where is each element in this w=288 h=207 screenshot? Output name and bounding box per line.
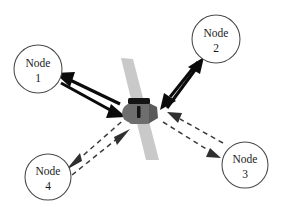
node-4[interactable]: Node 4	[25, 154, 71, 200]
link-node-2[interactable]	[160, 57, 204, 110]
node-3-label-top: Node	[233, 153, 258, 165]
link-node-3[interactable]	[163, 112, 223, 158]
link-node-4[interactable]	[66, 116, 130, 175]
dashed-line-to-satellite-from-node-3	[180, 119, 223, 143]
topology-svg: Node 1 Node 2 Node 3 Node 4	[0, 0, 288, 207]
satellite-body-antenna-mast	[137, 106, 141, 118]
node-1-circle	[14, 45, 62, 93]
node-4-circle	[25, 154, 71, 200]
node-3-circle	[222, 142, 268, 188]
node-3-label-bottom: 3	[242, 168, 248, 180]
node-2[interactable]: Node 2	[192, 15, 240, 63]
dashed-line-to-node-3	[163, 122, 208, 150]
node-4-label-top: Node	[36, 165, 61, 177]
solid-line-to-satellite-from-node-2	[170, 62, 198, 97]
node-1-label-top: Node	[26, 57, 51, 69]
node-2-circle	[192, 15, 240, 63]
node-2-label-top: Node	[204, 27, 229, 39]
node-2-label-bottom: 2	[213, 42, 219, 54]
link-node-1[interactable]	[55, 72, 126, 118]
arrowhead-toward-satellite-from-node-3	[167, 112, 182, 123]
arrowhead-toward-satellite-from-node-4	[114, 129, 130, 145]
node-3[interactable]: Node 3	[222, 142, 268, 188]
satellite-body-band	[128, 98, 150, 104]
diagram-canvas: Node 1 Node 2 Node 3 Node 4	[0, 0, 288, 207]
satellite-body[interactable]	[122, 98, 158, 124]
node-1[interactable]: Node 1	[14, 45, 62, 93]
arrowhead-toward-node-3	[206, 148, 221, 158]
node-4-label-bottom: 4	[45, 180, 51, 192]
node-1-label-bottom: 1	[35, 72, 41, 84]
